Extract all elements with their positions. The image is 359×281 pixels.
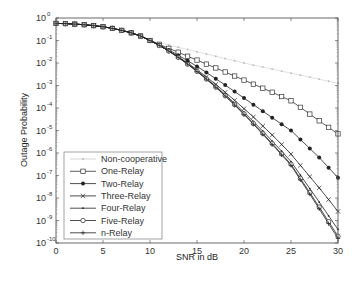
svg-text:-5: -5 [47, 124, 53, 130]
legend-label: Four-Relay [101, 203, 146, 213]
y-tick-label: 10 [36, 238, 46, 248]
svg-text:0: 0 [47, 11, 51, 17]
legend-label: n-Relay [101, 228, 133, 238]
svg-text:-2: -2 [47, 56, 53, 62]
y-tick-label: 10 [36, 126, 46, 136]
y-tick-label: 10 [36, 171, 46, 181]
y-axis-label: Outage Probability [19, 92, 29, 167]
y-tick-label: 10 [36, 58, 46, 68]
y-tick-label: 10 [36, 216, 46, 226]
y-tick-label: 10 [36, 81, 46, 91]
legend-label: One-Relay [101, 166, 145, 176]
series-one-relay [54, 21, 340, 136]
outage-probability-chart: 051015202530 10010-110-210-310-410-510-6… [0, 0, 359, 281]
y-tick-label: 10 [36, 103, 46, 113]
svg-text:-1: -1 [47, 34, 53, 40]
svg-text:-6: -6 [47, 146, 53, 152]
y-tick-label: 10 [36, 148, 46, 158]
svg-text:-7: -7 [47, 169, 53, 175]
svg-text:-4: -4 [47, 101, 53, 107]
svg-text:-9: -9 [47, 214, 53, 220]
x-tick-label: 25 [286, 246, 296, 256]
legend-label: Three-Relay [101, 191, 151, 201]
svg-text:-8: -8 [47, 191, 53, 197]
legend: Non-cooperativeOne-RelayTwo-RelayThree-R… [64, 152, 167, 239]
svg-text:-10: -10 [47, 236, 56, 242]
x-tick-label: 30 [333, 246, 343, 256]
legend-label: Non-cooperative [101, 154, 167, 164]
x-tick-label: 0 [53, 246, 58, 256]
y-tick-label: 10 [36, 13, 46, 23]
series-non-cooperative [55, 23, 339, 85]
legend-label: Five-Relay [101, 216, 145, 226]
x-tick-label: 10 [145, 246, 155, 256]
x-tick-label: 20 [239, 246, 249, 256]
y-tick-label: 10 [36, 193, 46, 203]
x-tick-label: 5 [100, 246, 105, 256]
y-tick-label: 10 [36, 36, 46, 46]
legend-label: Two-Relay [101, 179, 144, 189]
svg-text:-3: -3 [47, 79, 53, 85]
x-axis-label: SNR in dB [176, 252, 218, 262]
